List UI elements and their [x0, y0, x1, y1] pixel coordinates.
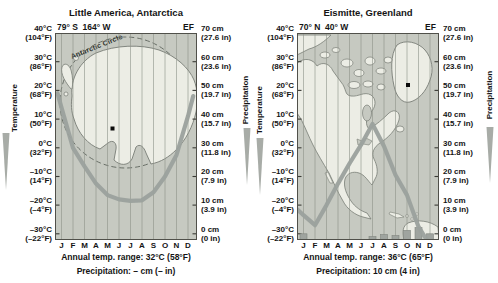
temperature-axis-title: Temperature [10, 68, 20, 148]
month-label: O [162, 241, 168, 250]
newfoundland [396, 126, 404, 132]
month-label: D [185, 241, 191, 250]
temp-axis-label: 20°C(68°F) [272, 81, 294, 99]
arctic-island [363, 81, 373, 87]
temp-axis-label: 10°C(50°F) [30, 110, 52, 128]
temp-axis-label: 30°C(86°F) [272, 53, 294, 71]
greenland-climograph-plot [297, 33, 439, 240]
month-label: A [139, 241, 145, 250]
temperature-axis-title: Temperature [255, 70, 265, 150]
arctic-island [332, 48, 340, 53]
temp-axis-label: 20°C(68°F) [30, 81, 52, 99]
precip-axis-label: 40 cm(15.7 in) [443, 110, 473, 128]
precip-bar [300, 234, 307, 240]
plot-area-little-america: Antarctic Circle [55, 33, 197, 240]
precip-axis-label: 10 cm(3.9 in) [201, 196, 227, 214]
precip-bar [404, 230, 411, 239]
precip-bar [381, 235, 388, 240]
arctic-island [365, 57, 375, 65]
antarctica-climograph-plot: Antarctic Circle [55, 33, 197, 240]
arctic-island [320, 52, 330, 58]
temp-axis-label: 10°C(50°F) [272, 110, 294, 128]
island [64, 92, 68, 96]
climate-class-label: EF [183, 22, 194, 32]
month-label: M [81, 241, 88, 250]
coordinates-label: 70° N 40° W [299, 22, 348, 32]
station-dot [406, 83, 410, 87]
month-label: A [93, 241, 99, 250]
precip-axis-label: 10 cm(3.9 in) [443, 196, 469, 214]
precip-bar [392, 236, 399, 240]
month-label: F [313, 241, 318, 250]
chart-title: Eismitte, Greenland [323, 7, 412, 18]
precip-axis-label: 50 cm(19.7 in) [201, 81, 231, 99]
precipitation-axis-title: Precipitation [485, 55, 495, 135]
climate-class-label: EF [425, 22, 436, 32]
precip-axis-label: 60 cm(23.6 in) [201, 53, 231, 71]
month-label: D [427, 241, 433, 250]
precip-axis-label: 0 cm(0 in) [443, 225, 462, 243]
hudson-bay [363, 105, 372, 121]
month-label: J [370, 241, 374, 250]
month-label: M [104, 241, 111, 250]
arctic-island [341, 59, 353, 67]
temp-axis-label: –20°C(–4°F) [30, 196, 52, 214]
precip-axis-label: 20 cm(7.9 in) [201, 167, 227, 185]
coordinates-label: 79° S 164° W [57, 22, 111, 32]
caption-precipitation: Precipitation: 10 cm (4 in) [316, 266, 419, 276]
precip-axis-label: 70 cm(27.6 in) [201, 24, 231, 42]
month-label: J [128, 241, 132, 250]
temp-axis-label: –20°C(–4°F) [272, 196, 294, 214]
precip-axis-label: 40 cm(15.7 in) [201, 110, 231, 128]
temp-axis-label: –10°C(14°F) [30, 167, 52, 185]
caption-temp-range: Annual temp. range: 32°C (58°F) [61, 252, 191, 262]
precipitation-axis-title: Precipitation [241, 60, 251, 140]
month-label: N [174, 241, 180, 250]
temp-axis-label: 0°C(32°F) [272, 139, 294, 157]
climograph-figure: Little America, Antarctica 79° S 164° W … [0, 0, 498, 283]
caribbean-island [411, 218, 414, 221]
caption-temp-range: Annual temp. range: 36°C (65°F) [303, 252, 433, 262]
month-label: S [151, 241, 156, 250]
month-label: A [381, 241, 387, 250]
temp-axis-label: –30°C(–22°F) [25, 225, 52, 243]
month-label: J [59, 241, 63, 250]
month-label: J [301, 241, 305, 250]
precip-axis-label: 30 cm(11.8 in) [201, 139, 231, 157]
precip-axis-label: 20 cm(7.9 in) [443, 167, 469, 185]
precip-axis-label: 50 cm(19.7 in) [443, 81, 473, 99]
precip-axis-label: 60 cm(23.6 in) [443, 53, 473, 71]
precip-axis-label: 0 cm(0 in) [201, 225, 220, 243]
chart-title: Little America, Antarctica [69, 7, 183, 18]
month-label: M [346, 241, 353, 250]
precip-axis-label: 70 cm(27.6 in) [443, 24, 473, 42]
station-dot [111, 127, 115, 131]
month-label: S [393, 241, 398, 250]
temp-axis-label: 40°C(104°F) [25, 24, 52, 42]
month-label: J [117, 241, 121, 250]
temperature-axis-arrow-icon [3, 133, 10, 190]
precip-axis-label: 30 cm(11.8 in) [443, 139, 473, 157]
temp-axis-label: 30°C(86°F) [30, 53, 52, 71]
arctic-island [384, 57, 392, 63]
arctic-island [354, 70, 364, 77]
month-label: M [323, 241, 330, 250]
plot-area-eismitte [297, 33, 439, 240]
temp-axis-label: –30°C(–22°F) [267, 225, 294, 243]
month-label: A [335, 241, 341, 250]
temp-axis-label: –10°C(14°F) [272, 167, 294, 185]
month-label: J [359, 241, 363, 250]
caption-precipitation: Precipitation: – cm (– in) [77, 266, 176, 276]
precipitation-axis-arrow-icon [487, 127, 494, 183]
month-label: N [416, 241, 422, 250]
month-label: F [71, 241, 76, 250]
month-label: O [404, 241, 410, 250]
temp-axis-label: 0°C(32°F) [30, 139, 52, 157]
arctic-island [376, 68, 386, 74]
temp-axis-label: 40°C(104°F) [267, 24, 294, 42]
